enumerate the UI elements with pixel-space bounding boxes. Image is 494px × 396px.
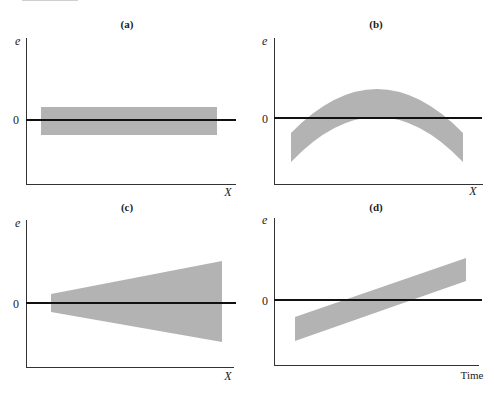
panel-a-zero-label: 0 — [13, 113, 19, 127]
panel-c-y-label: e — [15, 216, 21, 230]
panel-c: (c) e 0 X — [0, 198, 247, 396]
panel-a: (a) e 0 X — [0, 0, 247, 198]
panel-c-x-label: X — [223, 369, 232, 383]
panel-a-x-label: X — [223, 185, 232, 198]
panel-d-title: (d) — [369, 201, 383, 214]
panel-b-x-label: X — [468, 184, 477, 198]
panel-c-zero-label: 0 — [13, 297, 19, 311]
panel-d-x-label: Time — [461, 369, 484, 381]
panel-d-zero-label: 0 — [262, 294, 268, 308]
panel-a-title: (a) — [121, 18, 134, 31]
panel-b-title: (b) — [369, 18, 383, 31]
panel-b-band — [291, 89, 463, 162]
panel-b-zero-label: 0 — [262, 112, 268, 126]
panel-b-y-label: e — [262, 34, 268, 48]
panel-c-title: (c) — [121, 201, 134, 214]
panel-a-y-label: e — [15, 34, 21, 48]
panel-d-y-label: e — [262, 213, 268, 227]
panel-c-band — [51, 261, 222, 342]
panel-b: (b) e 0 X — [247, 0, 494, 198]
panel-d: (d) e 0 Time — [247, 198, 494, 396]
